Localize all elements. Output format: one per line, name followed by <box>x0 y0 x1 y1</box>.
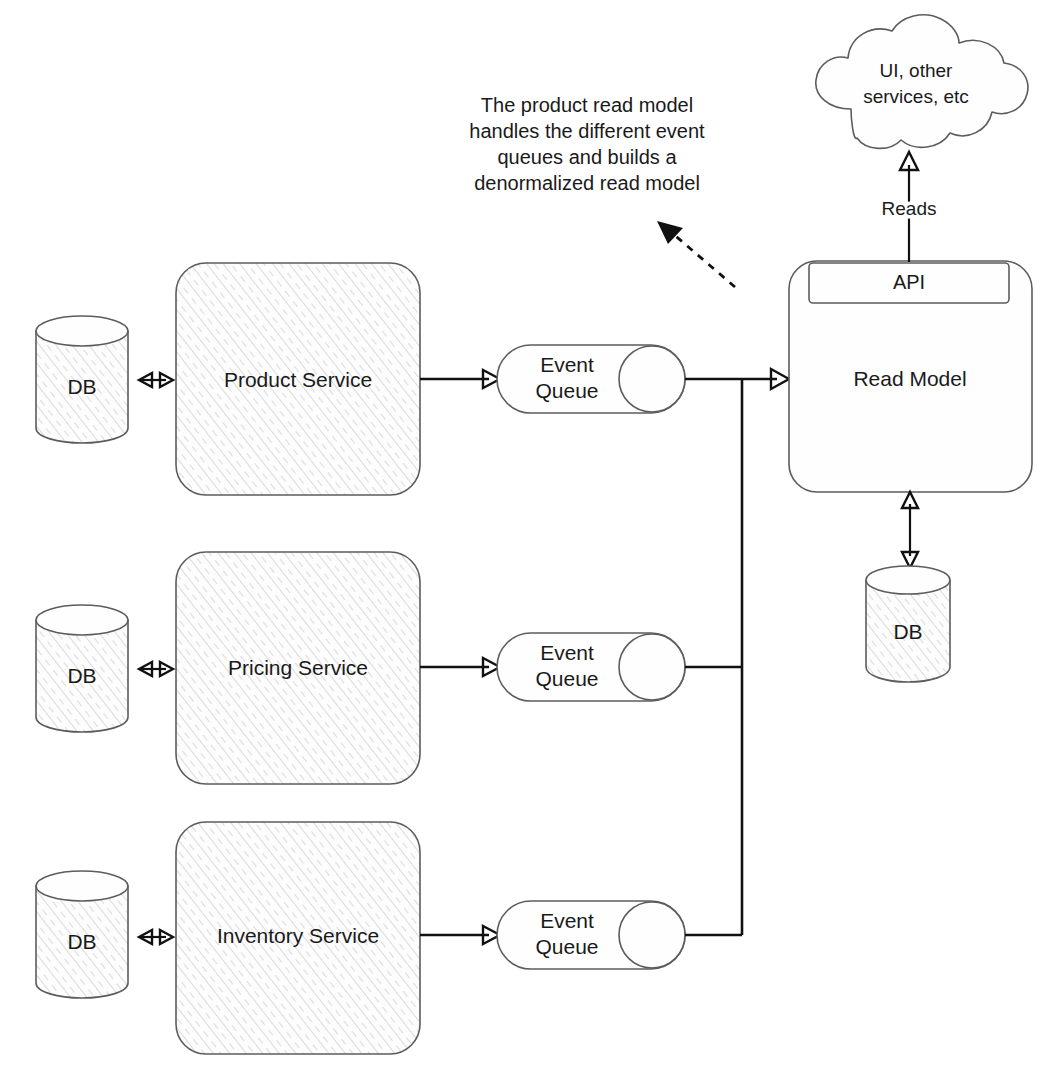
db-label-product: DB <box>67 375 96 398</box>
diagram-canvas: DB Product Service Event Queue DB <box>0 0 1061 1087</box>
edge-pricing-service-to-queue <box>420 658 500 676</box>
edge-db-product-service <box>139 373 173 387</box>
edge-product-service-to-queue <box>420 370 500 388</box>
read-model-label: Read Model <box>853 367 966 390</box>
edge-db-inventory-service <box>139 930 173 944</box>
edge-read-model-db <box>902 492 918 568</box>
event-queue-label-pricing-2: Queue <box>535 667 598 690</box>
service-label-inventory: Inventory Service <box>217 924 379 947</box>
edge-db-pricing-service <box>139 662 173 676</box>
cloud-label-line-2: services, etc <box>863 86 969 107</box>
service-label-pricing: Pricing Service <box>228 656 368 679</box>
event-bus-to-read-model <box>685 369 789 935</box>
db-label-pricing: DB <box>67 664 96 687</box>
annotation-line-3: queues and builds a <box>497 146 677 168</box>
service-label-product: Product Service <box>224 368 372 391</box>
event-queue-label-inventory-2: Queue <box>535 935 598 958</box>
db-label-inventory: DB <box>67 930 96 953</box>
edge-inventory-service-to-queue <box>420 926 500 944</box>
event-queue-label-product-2: Queue <box>535 379 598 402</box>
db-label-read-model: DB <box>893 620 922 643</box>
annotation-line-1: The product read model <box>481 94 693 116</box>
annotation-line-4: denormalized read model <box>474 172 700 194</box>
event-queue-label-inventory-1: Event <box>540 909 594 932</box>
annotation-dashed-arrow-icon <box>657 221 735 287</box>
architecture-diagram: DB Product Service Event Queue DB <box>0 0 1061 1087</box>
event-queue-label-pricing-1: Event <box>540 641 594 664</box>
cloud-external-consumers <box>816 15 1028 149</box>
reads-edge-label: Reads <box>882 198 937 219</box>
event-queue-label-product-1: Event <box>540 353 594 376</box>
cloud-label-line-1: UI, other <box>880 60 954 81</box>
api-label: API <box>893 271 925 293</box>
annotation-line-2: handles the different event <box>469 120 705 142</box>
